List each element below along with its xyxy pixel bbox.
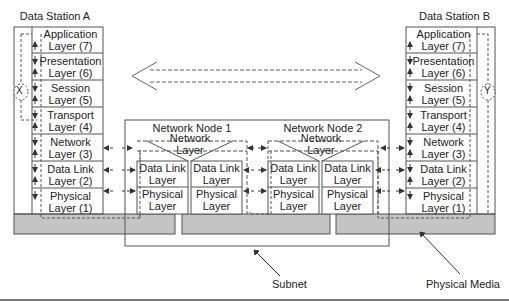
station-b-stack: ApplicationLayer (7) PresentationLayer (… [410,28,477,217]
node1-network-label: Network [160,132,220,144]
layer-5: SessionLayer (5) [410,82,477,109]
station-a-stack: ApplicationLayer (7) PresentationLayer (… [38,28,103,217]
subnet-label: Subnet [272,278,307,290]
station-a-title: Data Station A [0,10,110,22]
station-b-title: Data Station B [400,10,509,22]
layer-7: ApplicationLayer (7) [38,28,103,55]
node2-right-physical: PhysicalLayer [322,188,373,212]
node2-left-datalink: Data LinkLayer [268,162,319,186]
layer-1: PhysicalLayer (1) [38,190,103,217]
node1-network-label-2: Layer [160,144,220,156]
peer-to-peer-arrow [132,62,380,90]
layer-2: Data LinkLayer (2) [410,163,477,190]
node2-right-datalink: Data LinkLayer [322,162,373,186]
layer-3: NetworkLayer (3) [38,136,103,163]
layer-5: SessionLayer (5) [38,82,103,109]
node1-right-datalink: Data LinkLayer [191,162,242,186]
node1-right-physical: PhysicalLayer [191,188,242,212]
marker-x: X [16,85,23,96]
layer-6: PresentationLayer (6) [38,55,103,82]
marker-y: Y [484,85,491,96]
layer-1: PhysicalLayer (1) [410,190,477,217]
layer-2: Data LinkLayer (2) [38,163,103,190]
node2-left-physical: PhysicalLayer [268,188,319,212]
layer-6: PresentationLayer (6) [410,55,477,82]
layer-3: NetworkLayer (3) [410,136,477,163]
layer-4: TransportLayer (4) [410,109,477,136]
physical-media [14,214,495,234]
callout-lines [254,232,460,276]
node2-network-label-2: Layer [291,144,351,156]
node1-left-physical: PhysicalLayer [137,188,188,212]
node2-network-label: Network [291,132,351,144]
node1-left-datalink: Data LinkLayer [137,162,188,186]
physical-media-label: Physical Media [426,278,500,290]
layer-4: TransportLayer (4) [38,109,103,136]
layer-7: ApplicationLayer (7) [410,28,477,55]
